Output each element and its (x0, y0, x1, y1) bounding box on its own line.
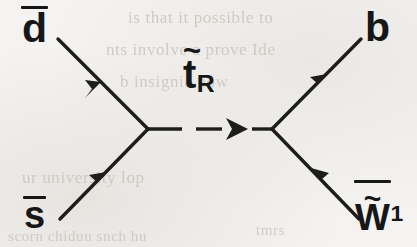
label-dbar-symbol: d (22, 8, 47, 49)
label-antichargino: ~ W 1 (355, 186, 403, 223)
b-line (272, 39, 361, 129)
label-stop-squark: ~ t R (183, 54, 215, 94)
label-b-quark: b (365, 7, 390, 48)
overline-accent-sbar (23, 196, 46, 199)
propagator-arrowhead (226, 118, 248, 140)
dbar-line (58, 39, 148, 129)
tilde-accent-stop: ~ (183, 35, 196, 66)
sbar-line (60, 129, 148, 219)
label-wino-symbol: W (355, 199, 390, 236)
feynman-diagram-figure: is that it possible to nts involve a pro… (0, 0, 417, 247)
propagator-line (148, 118, 272, 140)
label-dbar: d (22, 8, 47, 49)
label-sbar-symbol: s (24, 196, 45, 234)
overline-accent-dbar (21, 6, 48, 9)
label-sbar: s (24, 196, 45, 234)
label-stop-subscript: R (197, 70, 215, 97)
wino-line (272, 129, 359, 219)
label-wino-subscript: 1 (390, 200, 403, 226)
label-b-symbol: b (365, 4, 390, 50)
